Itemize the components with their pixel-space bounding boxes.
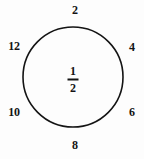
fraction-denominator: 2 <box>70 81 76 94</box>
ring-label-upper-left: 12 <box>8 40 20 52</box>
ring-label-lower-right: 6 <box>129 106 135 118</box>
ring-label-bottom: 8 <box>72 139 78 151</box>
ring-label-upper-right: 4 <box>129 41 135 53</box>
fraction-numerator: 1 <box>70 65 76 78</box>
ring-label-lower-left: 10 <box>8 106 20 118</box>
circle-number-figure: 2 4 6 8 10 12 1 2 <box>0 0 144 159</box>
center-fraction: 1 2 <box>68 65 79 94</box>
ring-label-top: 2 <box>72 4 78 16</box>
